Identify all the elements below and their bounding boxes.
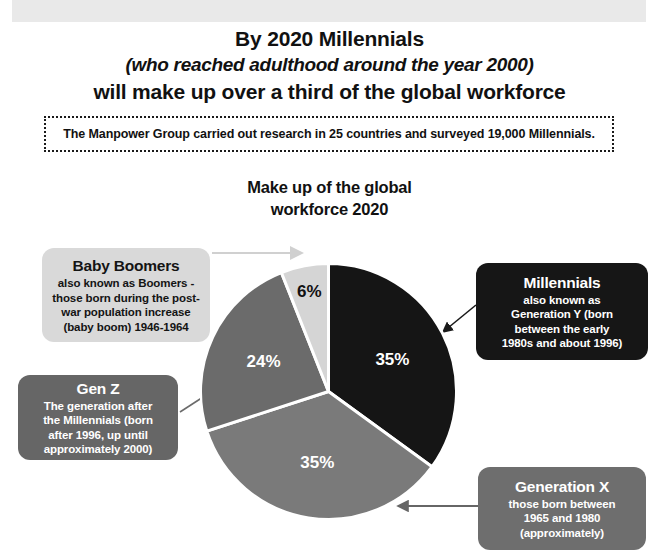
- callout-millennials-line-1: also known as: [523, 293, 600, 308]
- callout-millennials-line-2: Generation Y (born: [511, 307, 613, 322]
- research-note-box: The Manpower Group carried out research …: [44, 116, 614, 152]
- research-note-text: The Manpower Group carried out research …: [63, 127, 595, 141]
- callout-baby-boomers[interactable]: Baby Boomers also known as Boomers - tho…: [42, 248, 210, 342]
- callout-generation-x-line-2: 1965 and 1980: [524, 511, 601, 526]
- scan-artifact-band: [12, 0, 646, 22]
- headline-block: By 2020 Millennials (who reached adultho…: [0, 26, 659, 106]
- pie-label-gen-z: 24%: [247, 352, 281, 371]
- callout-gen-z-line-1: The generation after: [44, 399, 153, 414]
- callout-millennials[interactable]: Millennials also known as Generation Y (…: [476, 263, 648, 360]
- callout-generation-x[interactable]: Generation X those born between 1965 and…: [478, 467, 646, 550]
- pie-chart-svg: 35%35%24%6%: [200, 263, 457, 520]
- callout-baby-boomers-title: Baby Boomers: [73, 256, 180, 275]
- callout-millennials-title: Millennials: [523, 273, 600, 292]
- pie-chart: 35%35%24%6%: [200, 263, 457, 520]
- pie-label-baby-boomers: 6%: [297, 282, 322, 301]
- callout-gen-z-line-3: after 1996, up until: [48, 428, 148, 443]
- headline-line-1: By 2020 Millennials: [0, 26, 659, 52]
- pie-label-millennials: 35%: [375, 350, 409, 369]
- callout-gen-z-title: Gen Z: [77, 379, 120, 398]
- chart-title: Make up of the global workforce 2020: [0, 176, 659, 220]
- callout-millennials-line-4: 1980s and about 1996): [502, 336, 623, 351]
- callout-baby-boomers-line-3: war population increase: [61, 305, 190, 320]
- callout-baby-boomers-line-2: those born during the post-: [52, 291, 199, 306]
- callout-generation-x-line-1: those born between: [509, 497, 616, 512]
- callout-gen-z-line-4: approximately 2000): [44, 442, 153, 457]
- callout-generation-x-line-3: (approximately): [520, 526, 604, 541]
- callout-baby-boomers-line-4: (baby boom) 1946-1964: [63, 320, 188, 335]
- chart-title-line-2: workforce 2020: [0, 198, 659, 220]
- callout-baby-boomers-line-1: also known as Boomers -: [58, 276, 194, 291]
- callout-millennials-line-3: between the early: [515, 322, 610, 337]
- callout-gen-z-line-2: the Millennials (born: [43, 413, 153, 428]
- headline-line-2: (who reached adulthood around the year 2…: [0, 52, 659, 78]
- pie-label-generation-x: 35%: [300, 453, 334, 472]
- callout-generation-x-title: Generation X: [515, 477, 609, 496]
- chart-title-line-1: Make up of the global: [0, 176, 659, 198]
- headline-line-3: will make up over a third of the global …: [0, 78, 659, 106]
- callout-gen-z[interactable]: Gen Z The generation after the Millennia…: [18, 375, 178, 460]
